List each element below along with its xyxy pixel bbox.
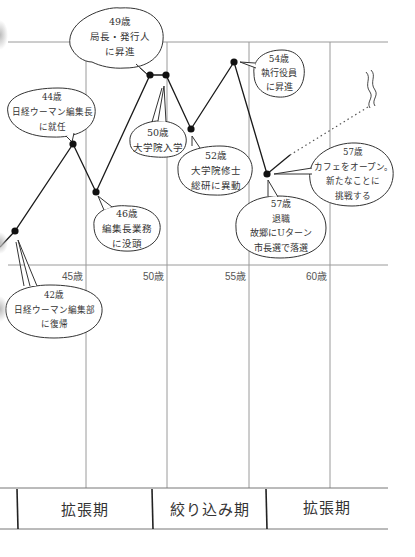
bubble-text: に就任 [8,120,96,135]
bubble-text: 新たなことに [312,174,394,189]
bubble-text: 局長・発行人 [78,29,162,44]
bubble-49: 49歳 局長・発行人 に昇進 [78,14,162,59]
phase-expansion-1: 拡張期 [18,498,152,519]
bubble-text: カフェをオープン。 [312,160,394,175]
phase-narrowing: 絞り込み期 [153,498,266,519]
bubble-age: 42歳 [6,288,102,303]
future-line-solid [267,155,290,174]
career-chart: 49歳 局長・発行人 に昇進 44歳 日経ウーマン編集長 に就任 46歳 編集長… [0,0,415,557]
bubble-text: に昇進 [254,80,304,94]
bubble-50: 50歳 大学院入学 [130,125,186,155]
bubble-57-retire: 57歳 退職 故郷にUターン 市長選で落選 [236,197,326,255]
bubble-46: 46歳 編集長業務 に没頭 [94,206,160,251]
bubble-text: 執行役員 [254,66,304,80]
bubble-age: 54歳 [254,52,304,66]
break-mark-icon [366,72,371,108]
bubble-44: 44歳 日経ウーマン編集長 に就任 [8,90,96,135]
bubble-57-cafe: 57歳 カフェをオープン。 新たなことに 挑戦する [312,145,394,203]
bubble-text: に復帰 [6,317,102,332]
edge-shadow [0,232,8,254]
bubble-text: 挑戦する [312,189,394,204]
bubble-54: 54歳 執行役員 に昇進 [254,52,304,94]
bubble-text: 編集長業務 [94,221,160,236]
tick-45: 45歳 [62,268,83,283]
bubble-52: 52歳 大学院修士 総研に異動 [180,148,252,193]
tick-60: 60歳 [306,268,327,283]
bubble-text: 大学院修士 [180,163,252,178]
bubble-age: 50歳 [130,125,186,140]
bubble-text: に没頭 [94,236,160,251]
bubble-age: 52歳 [180,148,252,163]
bubble-age: 44歳 [8,90,96,105]
tick-50: 50歳 [143,268,164,283]
bubble-text: 総研に異動 [180,178,252,193]
phase-expansion-2: 拡張期 [267,496,387,517]
bubble-text: 退職 [236,212,326,227]
edge-shadow [0,20,8,50]
bubble-age: 49歳 [78,14,162,29]
bubble-age: 57歳 [312,145,394,160]
bubble-text: 日経ウーマン編集長 [8,105,96,120]
tick-55: 55歳 [225,268,246,283]
bubble-42: 42歳 日経ウーマン編集部 に復帰 [6,288,102,332]
bubble-text: 故郷にUターン [236,226,326,241]
bubble-text: 日経ウーマン編集部 [6,303,102,318]
bubble-text: 大学院入学 [130,140,186,155]
bubble-text: 市長選で落選 [236,241,326,256]
bubble-age: 46歳 [94,206,160,221]
bubble-text: に昇進 [78,44,162,59]
